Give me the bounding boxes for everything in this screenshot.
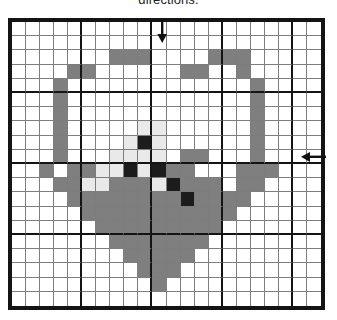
stitch-cell	[293, 235, 307, 249]
stitch-cell	[68, 79, 82, 93]
stitch-cell	[82, 278, 96, 292]
stitch-cell	[251, 192, 265, 206]
stitch-cell	[110, 221, 124, 235]
stitch-cell	[124, 65, 138, 79]
stitch-cell	[251, 263, 265, 277]
stitch-cell	[223, 107, 237, 121]
stitch-cell	[96, 207, 110, 221]
stitch-cell	[279, 65, 293, 79]
stitch-cell	[124, 263, 138, 277]
stitch-cell	[124, 164, 138, 178]
stitch-cell	[195, 50, 209, 64]
stitch-cell	[209, 150, 223, 164]
stitch-cell	[181, 150, 195, 164]
stitch-cell	[237, 178, 251, 192]
stitch-cell	[68, 178, 82, 192]
stitch-cell	[237, 121, 251, 135]
stitch-cell	[96, 221, 110, 235]
stitch-cell	[12, 278, 26, 292]
stitch-cell	[138, 221, 152, 235]
stitch-cell	[251, 65, 265, 79]
stitch-cell	[82, 207, 96, 221]
stitch-cell	[195, 136, 209, 150]
stitch-cell	[167, 249, 181, 263]
stitch-cell	[138, 136, 152, 150]
stitch-cell	[195, 235, 209, 249]
stitch-cell	[237, 207, 251, 221]
stitch-cell	[237, 150, 251, 164]
stitch-cell	[307, 136, 321, 150]
stitch-cell	[110, 79, 124, 93]
stitch-cell	[40, 107, 54, 121]
stitch-cell	[195, 278, 209, 292]
stitch-cell	[209, 249, 223, 263]
stitch-cell	[181, 292, 195, 306]
stitch-cell	[96, 150, 110, 164]
stitch-cell	[293, 79, 307, 93]
stitch-cell	[293, 178, 307, 192]
stitch-cell	[82, 192, 96, 206]
stitch-cell	[293, 50, 307, 64]
stitch-cell	[110, 235, 124, 249]
stitch-cell	[195, 93, 209, 107]
stitch-cell	[82, 263, 96, 277]
stitch-cell	[237, 263, 251, 277]
stitch-cell	[82, 150, 96, 164]
stitch-cell	[40, 93, 54, 107]
stitch-cell	[110, 249, 124, 263]
stitch-cell	[96, 292, 110, 306]
stitch-cell	[195, 178, 209, 192]
stitch-cell	[54, 192, 68, 206]
stitch-cell	[265, 121, 279, 135]
stitch-cell	[138, 121, 152, 135]
stitch-cell	[54, 164, 68, 178]
stitch-cell	[279, 79, 293, 93]
stitch-cell	[265, 36, 279, 50]
stitch-cell	[251, 79, 265, 93]
stitch-cell	[195, 192, 209, 206]
stitch-cell	[12, 65, 26, 79]
stitch-cell	[293, 207, 307, 221]
stitch-cell	[110, 278, 124, 292]
stitch-cell	[110, 207, 124, 221]
stitch-cell	[237, 50, 251, 64]
stitch-cell	[152, 178, 166, 192]
stitch-cell	[195, 207, 209, 221]
stitch-cell	[181, 178, 195, 192]
stitch-cell	[54, 107, 68, 121]
stitch-cell	[96, 235, 110, 249]
stitch-cell	[96, 136, 110, 150]
stitch-cell	[12, 121, 26, 135]
stitch-cell	[96, 164, 110, 178]
stitch-cell	[237, 221, 251, 235]
stitch-cell	[181, 79, 195, 93]
stitch-cell	[251, 36, 265, 50]
stitch-cell	[138, 207, 152, 221]
stitch-cell	[195, 292, 209, 306]
stitch-cell	[40, 263, 54, 277]
stitch-cell	[110, 192, 124, 206]
stitch-cell	[68, 93, 82, 107]
stitch-cell	[96, 22, 110, 36]
stitch-cell	[223, 249, 237, 263]
stitch-cell	[40, 278, 54, 292]
stitch-cell	[223, 136, 237, 150]
stitch-cell	[223, 292, 237, 306]
stitch-cell	[251, 121, 265, 135]
stitch-cell	[12, 207, 26, 221]
stitch-cell	[26, 292, 40, 306]
stitch-cell	[209, 107, 223, 121]
stitch-cell	[54, 292, 68, 306]
stitch-cell	[40, 36, 54, 50]
stitch-cell	[181, 263, 195, 277]
stitch-cell	[110, 50, 124, 64]
stitch-cell	[124, 192, 138, 206]
stitch-cell	[26, 150, 40, 164]
stitch-cell	[68, 249, 82, 263]
stitch-cell	[293, 292, 307, 306]
stitch-cell	[138, 263, 152, 277]
stitch-cell	[96, 107, 110, 121]
stitch-cell	[237, 164, 251, 178]
stitch-cell	[26, 235, 40, 249]
stitch-cell	[181, 278, 195, 292]
